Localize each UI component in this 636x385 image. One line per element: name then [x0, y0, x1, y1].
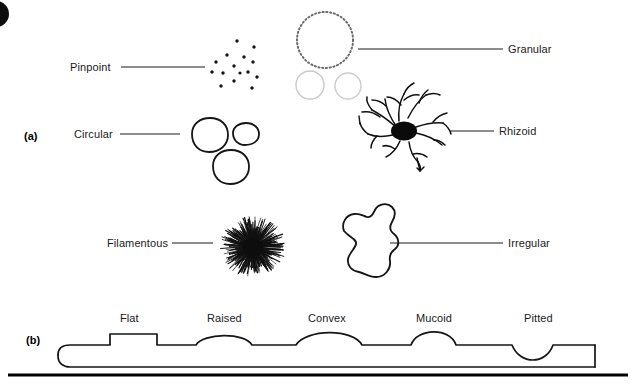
label-flat: Flat	[120, 312, 139, 324]
label-circular: Circular	[74, 128, 113, 140]
agar-bottom-edge	[58, 355, 595, 367]
granular-colony-drawing	[296, 12, 361, 99]
page-corner-dot	[0, 1, 9, 27]
label-pinpoint: Pinpoint	[70, 61, 111, 73]
figure-artwork	[0, 0, 636, 385]
label-raised: Raised	[207, 312, 242, 324]
label-convex: Convex	[308, 312, 346, 324]
pinpoint-colony-drawing	[210, 39, 258, 89]
label-granular: Granular	[508, 43, 552, 55]
label-filamentous: Filamentous	[107, 237, 168, 249]
label-irregular: Irregular	[508, 237, 550, 249]
agar-top-profile	[58, 332, 595, 360]
circular-colony-drawing	[192, 118, 259, 184]
panel-label-b: (b)	[26, 334, 40, 346]
label-rhizoid: Rhizoid	[499, 125, 536, 137]
irregular-colony-drawing	[343, 204, 398, 277]
label-mucoid: Mucoid	[416, 312, 452, 324]
filamentous-colony-drawing	[221, 217, 285, 276]
label-pitted: Pitted	[524, 312, 553, 324]
colony-morphology-figure: (a) (b) Pinpoint Granular Circular Rhizo…	[0, 0, 636, 385]
panel-label-a: (a)	[24, 130, 37, 142]
agar-slab-cross-section	[58, 332, 595, 367]
rhizoid-colony-drawing	[359, 83, 451, 171]
